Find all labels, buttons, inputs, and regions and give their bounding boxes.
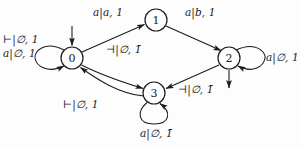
edge-label-2-to-3: ⊣|∅, 1̄ [178,83,214,96]
diagram-graphics: 0 1 2 3 [0,0,302,147]
edge-0-to-3 [82,65,144,89]
edge-label-0-to-3: ⊣|∅, 1̄ [106,43,142,56]
edge-label-3-to-0: ⊢|∅, 1 [63,98,99,111]
edge-label-self-loop-0-upper: ⊢|∅, 1 [3,33,39,46]
edge-label-self-loop-0-lower: a|∅, 1 [3,47,36,60]
edge-label-1-to-2: a|b, 1 [185,6,215,19]
edge-1-to-2 [166,26,221,51]
edge-label-0-to-1: a|a, 1 [93,6,123,19]
state-label-3: 3 [151,87,158,100]
edge-3-to-0 [81,68,144,97]
self-loop-state-0 [35,46,64,69]
state-label-1: 1 [153,14,160,27]
edge-label-self-loop-2: a|∅, 1 [266,51,299,64]
edge-label-self-loop-3: a|∅, 1̄ [140,127,173,140]
automaton-diagram: 0 1 2 3 a|a, 1 a|b, 1 ⊢|∅, 1 a|∅, 1 ⊣|∅,… [0,0,302,147]
self-loop-state-3 [140,103,168,125]
state-label-2: 2 [226,52,233,65]
state-label-0: 0 [69,52,76,65]
